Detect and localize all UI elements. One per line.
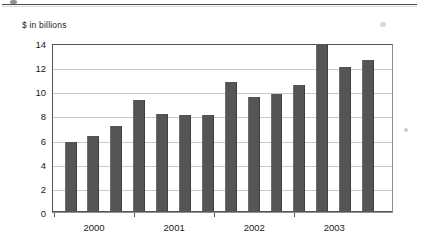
x-axis-label: 2000	[83, 222, 104, 233]
scan-artifact-speck-right	[380, 22, 386, 27]
bar	[339, 67, 351, 212]
bar	[156, 114, 168, 212]
x-axis-label: 2003	[324, 222, 345, 233]
bar	[65, 142, 77, 212]
x-axis-baseline	[53, 211, 392, 212]
bar	[271, 94, 283, 212]
x-axis-label: 2002	[244, 222, 265, 233]
bar	[110, 126, 122, 212]
bar	[248, 97, 260, 212]
y-axis-tick-label: 4	[0, 159, 46, 170]
y-axis-tick-label: 2	[0, 183, 46, 194]
bar	[202, 115, 214, 212]
bar	[316, 44, 328, 212]
y-axis-tick-label: 10	[0, 87, 46, 98]
x-axis-tick-mark	[214, 213, 215, 217]
x-axis-tick-mark	[134, 213, 135, 217]
page-top-rule-shadow	[2, 6, 417, 7]
x-axis-label: 2001	[164, 222, 185, 233]
y-axis-tick-label: 6	[0, 135, 46, 146]
bar	[293, 85, 305, 212]
bar	[225, 82, 237, 212]
bar	[179, 115, 191, 212]
bar	[133, 100, 145, 212]
chart-page: $ in billions 02468101214 20002001200220…	[0, 0, 421, 251]
page-top-rule	[2, 4, 417, 5]
y-axis-tick-label: 8	[0, 111, 46, 122]
bar	[362, 60, 374, 212]
y-axis-title: $ in billions	[22, 20, 67, 30]
x-axis-tick-mark	[54, 213, 55, 217]
y-axis-tick-label: 14	[0, 39, 46, 50]
y-axis-tick-label: 12	[0, 63, 46, 74]
x-axis-tick-mark	[294, 213, 295, 217]
bar-series	[53, 45, 392, 212]
plot-area	[52, 44, 393, 213]
bar	[87, 136, 99, 212]
y-axis-tick-label: 0	[0, 208, 46, 219]
scan-artifact-dot	[404, 128, 408, 132]
